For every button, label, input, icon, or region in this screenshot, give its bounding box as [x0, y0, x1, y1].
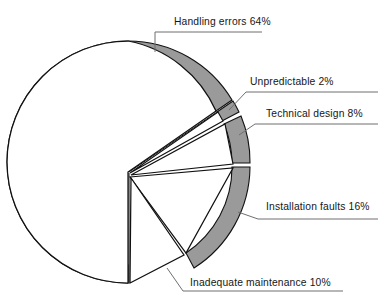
slice-label-handling-errors: Handling errors 64%	[174, 16, 271, 27]
slice-label-technical-design: Technical design 8%	[266, 108, 363, 119]
slice-label-installation-faults: Installation faults 16%	[266, 201, 370, 212]
pie-chart-canvas: Handling errors 64% Unpredictable 2% Tec…	[0, 0, 385, 302]
slice-label-inadequate-maintenance: Inadequate maintenance 10%	[190, 277, 331, 288]
slice-label-unpredictable: Unpredictable 2%	[250, 76, 334, 87]
pie-chart-figure: Handling errors 64% Unpredictable 2% Tec…	[0, 0, 385, 302]
